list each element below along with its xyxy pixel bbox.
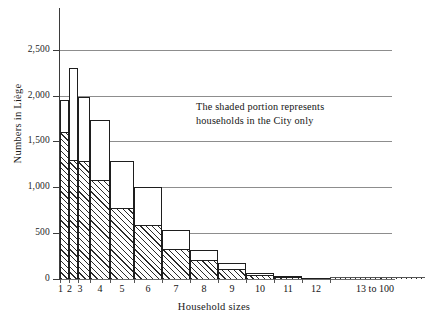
x-tick-label-1: 1 — [56, 283, 65, 294]
chart-annotation-line-1: The shaded portion represents — [196, 100, 324, 114]
x-tick-8 — [190, 279, 191, 283]
x-tick-label-8: 8 — [195, 283, 213, 294]
x-tick-6 — [134, 279, 135, 283]
x-tick-11 — [274, 279, 275, 283]
bar-shaded-5 — [110, 208, 134, 279]
y-tick-2500 — [53, 50, 60, 51]
x-tick-12 — [302, 279, 303, 283]
bar-household-13-to-100 — [330, 8, 425, 279]
y-tick-label-500: 500 — [4, 228, 50, 238]
y-tick-500 — [53, 233, 60, 234]
bar-shaded-12 — [302, 278, 330, 279]
x-axis-title: Household sizes — [0, 301, 428, 312]
bar-household-7 — [162, 8, 190, 279]
bar-household-2 — [69, 8, 78, 279]
bar-household-3 — [78, 8, 90, 279]
bar-household-12 — [302, 8, 330, 279]
bar-household-4 — [90, 8, 110, 279]
bar-shaded-9 — [218, 269, 246, 279]
bar-household-6 — [134, 8, 162, 279]
chart-annotation-line-2: households in the City only — [196, 114, 313, 128]
bar-household-10 — [246, 8, 274, 279]
bar-shaded-3 — [78, 161, 90, 279]
x-tick-label-11: 11 — [279, 283, 297, 294]
x-tick-7 — [162, 279, 163, 283]
chart-figure: 2,500 2,000 1,500 1,000 500 0 — [0, 0, 428, 321]
x-tick-label-2: 2 — [65, 283, 74, 294]
bar-shaded-4 — [90, 180, 110, 279]
bar-shaded-2 — [69, 160, 78, 279]
x-tick-13 — [330, 279, 331, 283]
x-tick-label-7: 7 — [167, 283, 185, 294]
bar-household-1 — [60, 8, 69, 279]
bar-shaded-8 — [190, 260, 218, 279]
bar-shaded-11 — [274, 277, 302, 279]
bar-household-5 — [110, 8, 134, 279]
y-tick-1000 — [53, 187, 60, 188]
x-tick-10 — [246, 279, 247, 283]
x-tick-label-5: 5 — [113, 283, 131, 294]
y-tick-label-0: 0 — [4, 274, 50, 284]
bar-shaded-10 — [246, 275, 274, 279]
x-tick-label-4: 4 — [91, 283, 109, 294]
y-tick-0 — [53, 279, 60, 280]
x-tick-label-13-to-100: 13 to 100 — [340, 283, 410, 294]
bar-household-11 — [274, 8, 302, 279]
y-tick-2000 — [53, 96, 60, 97]
y-tick-1500 — [53, 141, 60, 142]
bar-household-8 — [190, 8, 218, 279]
bar-household-9 — [218, 8, 246, 279]
x-tick-9 — [218, 279, 219, 283]
bar-shaded-7 — [162, 249, 190, 279]
bar-shaded-13-to-100 — [330, 277, 425, 279]
x-tick-5 — [110, 279, 111, 283]
x-tick-label-12: 12 — [307, 283, 325, 294]
x-tick-label-9: 9 — [223, 283, 241, 294]
x-tick-label-3: 3 — [75, 283, 85, 294]
bar-shaded-6 — [134, 225, 162, 279]
y-axis-title: Numbers in Liège — [12, 49, 23, 199]
x-tick-label-10: 10 — [251, 283, 269, 294]
bar-shaded-1 — [60, 132, 69, 279]
x-tick-label-6: 6 — [139, 283, 157, 294]
